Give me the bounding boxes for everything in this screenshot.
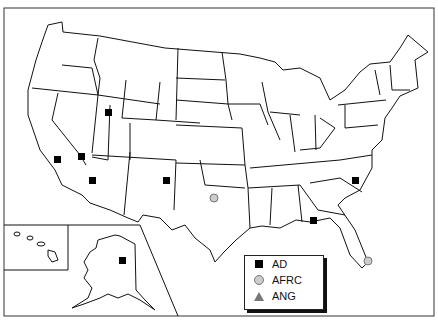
afrc-marker-texas[interactable] [210,194,218,202]
legend-label: AFRC [272,274,302,286]
ad-marker-utah[interactable] [105,109,112,116]
afrc-marker-florida[interactable] [364,257,372,265]
us-map [0,0,438,321]
legend-item-afrc: AFRC [245,272,323,288]
ad-marker-new-mexico[interactable] [163,177,170,184]
legend: AD AFRC ANG [244,255,324,310]
ad-marker-florida-panhandle[interactable] [310,217,317,224]
ad-marker-california[interactable] [54,156,61,163]
ad-marker-nevada[interactable] [78,153,85,160]
ad-marker-alaska[interactable] [119,257,126,264]
ad-marker-arizona[interactable] [89,177,96,184]
ad-marker-south-carolina[interactable] [352,177,359,184]
legend-label: ANG [272,290,296,302]
gray-circle-icon [252,275,266,285]
gray-triangle-icon [252,292,266,301]
legend-item-ang: ANG [245,288,323,304]
legend-item-ad: AD [245,256,323,272]
black-square-icon [252,260,266,268]
legend-label: AD [272,258,287,270]
